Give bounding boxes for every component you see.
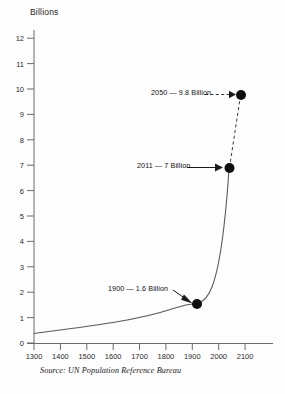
y-tick-label-4: 4 xyxy=(8,237,24,246)
y-tick-label-2: 2 xyxy=(8,288,24,297)
annotation-arrow-1900 xyxy=(173,290,193,304)
y-tick-label-10: 10 xyxy=(8,85,24,94)
y-tick-label-0: 0 xyxy=(8,339,24,348)
annotation-arrow-2011 xyxy=(187,163,223,171)
y-tick-label-7: 7 xyxy=(8,161,24,170)
y-axis-group xyxy=(27,30,34,344)
y-axis-ticks xyxy=(27,38,34,343)
annotation-label-2011: 2011 — 7 Billion xyxy=(137,161,190,170)
data-point-1900 xyxy=(192,299,202,309)
y-tick-label-12: 12 xyxy=(8,34,24,43)
x-axis-ticks xyxy=(34,344,245,351)
population-curve-historical xyxy=(34,168,229,334)
y-tick-label-6: 6 xyxy=(8,187,24,196)
population-growth-chart: Billions xyxy=(0,0,285,394)
data-point-2011 xyxy=(225,163,235,173)
x-axis-group xyxy=(27,344,273,351)
y-tick-label-3: 3 xyxy=(8,263,24,272)
source-note: Source: UN Population Reference Bureau xyxy=(40,366,181,375)
x-tick-label-2100: 2100 xyxy=(230,352,260,361)
y-tick-label-1: 1 xyxy=(8,314,24,323)
y-tick-label-8: 8 xyxy=(8,136,24,145)
annotation-label-1900: 1900 — 1.6 Billion xyxy=(108,284,168,293)
annotation-label-2050: 2050 — 9.8 Billion xyxy=(151,88,211,97)
chart-plot-area xyxy=(0,0,285,394)
y-tick-label-9: 9 xyxy=(8,110,24,119)
y-tick-label-11: 11 xyxy=(8,60,24,69)
data-point-2050 xyxy=(236,90,246,100)
population-curve-projected xyxy=(230,96,241,168)
y-tick-label-5: 5 xyxy=(8,212,24,221)
